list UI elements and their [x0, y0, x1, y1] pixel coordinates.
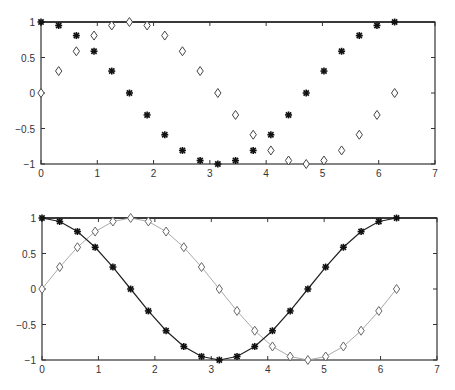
diamond-marker: [56, 67, 62, 76]
y-tick-label: 0: [29, 88, 35, 99]
asterisk-marker: [251, 343, 258, 350]
asterisk-marker: [304, 286, 311, 293]
diamond-marker: [356, 130, 362, 139]
y-tick-label: 0.5: [21, 53, 35, 64]
diamond-marker: [269, 342, 275, 351]
y-tick-label: 0: [30, 284, 36, 295]
diamond-marker: [91, 31, 97, 40]
x-tick-label: 7: [434, 364, 440, 375]
asterisk-marker: [74, 228, 81, 235]
bottom-line-plot: 01234567−1−0.500.51: [16, 213, 440, 375]
asterisk-marker: [373, 22, 380, 29]
asterisk-marker: [234, 353, 241, 360]
asterisk-marker: [126, 90, 133, 97]
y-tick-label: 0.5: [22, 249, 36, 260]
y-tick-label: −0.5: [15, 124, 35, 135]
figure: 01234567−1−0.500.51 01234567−1−0.500.51: [0, 0, 455, 390]
asterisk-marker: [250, 147, 257, 154]
asterisk-marker: [197, 157, 204, 164]
diamond-marker: [250, 130, 256, 139]
asterisk-marker: [320, 68, 327, 75]
asterisk-marker: [73, 32, 80, 39]
diamond-marker: [340, 342, 346, 351]
asterisk-marker: [340, 244, 347, 251]
x-tick-label: 3: [209, 364, 215, 375]
y-tick-label: −1: [24, 159, 36, 170]
top-scatter-plot: 01234567−1−0.500.51: [15, 17, 438, 179]
diamond-marker: [391, 89, 397, 98]
diamond-marker: [374, 110, 380, 119]
asterisk-marker: [338, 48, 345, 55]
asterisk-marker: [179, 147, 186, 154]
asterisk-marker: [375, 218, 382, 225]
asterisk-marker: [38, 19, 45, 26]
diamond-marker: [73, 47, 79, 56]
diamond-marker: [305, 356, 311, 365]
axes-frame: [41, 22, 435, 164]
asterisk-marker: [145, 307, 152, 314]
asterisk-marker: [393, 215, 400, 222]
x-tick-label: 2: [151, 168, 157, 179]
asterisk-marker: [108, 68, 115, 75]
asterisk-marker: [198, 353, 205, 360]
diamond-marker: [127, 214, 133, 223]
asterisk-marker: [214, 161, 221, 168]
asterisk-marker: [269, 327, 276, 334]
diamond-marker: [338, 146, 344, 155]
diamond-marker: [38, 89, 44, 98]
y-tick-label: 1: [29, 17, 35, 28]
asterisk-marker: [144, 111, 151, 118]
y-tick-label: 1: [30, 213, 36, 224]
asterisk-marker: [322, 264, 329, 271]
y-tick-label: −0.5: [16, 320, 36, 331]
asterisk-marker: [358, 228, 365, 235]
asterisk-marker: [109, 264, 116, 271]
x-tick-label: 3: [207, 168, 213, 179]
asterisk-marker: [180, 343, 187, 350]
asterisk-marker: [39, 215, 46, 222]
x-tick-label: 5: [320, 168, 326, 179]
asterisk-marker: [56, 218, 63, 225]
diamond-marker: [126, 18, 132, 27]
asterisk-marker: [163, 327, 170, 334]
diamond-marker: [303, 160, 309, 169]
asterisk-marker: [55, 22, 62, 29]
x-tick-label: 6: [376, 168, 382, 179]
x-tick-label: 1: [96, 364, 102, 375]
asterisk-marker: [91, 48, 98, 55]
x-tick-label: 1: [95, 168, 101, 179]
x-tick-label: 6: [378, 364, 384, 375]
x-tick-label: 4: [265, 364, 271, 375]
y-tick-label: −1: [25, 355, 37, 366]
asterisk-marker: [303, 90, 310, 97]
x-tick-label: 0: [38, 168, 44, 179]
asterisk-marker: [232, 157, 239, 164]
x-tick-label: 7: [432, 168, 438, 179]
asterisk-marker: [161, 131, 168, 138]
x-tick-label: 4: [263, 168, 269, 179]
x-tick-label: 5: [321, 364, 327, 375]
diamond-marker: [232, 110, 238, 119]
asterisk-marker: [216, 357, 223, 364]
diamond-marker: [197, 67, 203, 76]
diamond-marker: [92, 227, 98, 236]
asterisk-marker: [267, 131, 274, 138]
axes-frame: [42, 218, 437, 360]
asterisk-marker: [287, 307, 294, 314]
x-tick-label: 0: [39, 364, 45, 375]
asterisk-marker: [391, 19, 398, 26]
diamond-marker: [179, 47, 185, 56]
asterisk-marker: [285, 111, 292, 118]
diamond-marker: [163, 227, 169, 236]
diamond-marker: [162, 31, 168, 40]
x-tick-label: 2: [152, 364, 158, 375]
asterisk-marker: [356, 32, 363, 39]
diamond-marker: [268, 146, 274, 155]
asterisk-marker: [127, 286, 134, 293]
diamond-marker: [215, 89, 221, 98]
asterisk-marker: [92, 244, 99, 251]
